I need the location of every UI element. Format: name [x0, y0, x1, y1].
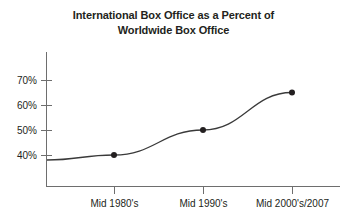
- line-chart-plot: 70% 60% 50% 40% Mid 1980's Mid 1990's Mi…: [0, 0, 347, 222]
- y-tick-label-70: 70%: [17, 75, 37, 86]
- data-series-line: [47, 93, 292, 161]
- data-point-marker-3: [289, 90, 295, 96]
- x-tick-label-2: Mid 1990's: [179, 198, 227, 209]
- y-tick-label-50: 50%: [17, 125, 37, 136]
- data-point-marker-2: [200, 127, 206, 133]
- x-tick-label-1: Mid 1980's: [90, 198, 138, 209]
- y-tick-label-40: 40%: [17, 150, 37, 161]
- x-tick-label-3: Mid 2000's/2007: [256, 198, 330, 209]
- data-point-marker-1: [111, 152, 117, 158]
- y-tick-label-60: 60%: [17, 100, 37, 111]
- chart-figure: International Box Office as a Percent of…: [0, 0, 347, 222]
